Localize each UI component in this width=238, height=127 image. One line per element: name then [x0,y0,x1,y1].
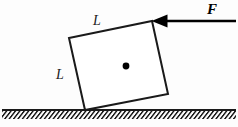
side-label-top: L [92,13,101,28]
side-label-left: L [55,67,64,82]
center-of-mass-dot [123,63,130,70]
ground-hatching [2,111,236,120]
figure-canvas: L L F [0,0,238,127]
block-square [69,21,168,110]
block-outline [69,21,168,110]
ground-region [2,110,236,119]
force-arrow [152,15,237,28]
force-label: F [206,1,217,17]
physics-figure: L L F [0,0,238,127]
